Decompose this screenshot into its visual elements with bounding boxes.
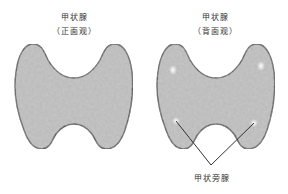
back-view-subtitle: （背面观） (193, 25, 238, 36)
thyroid-front-shape (15, 44, 133, 149)
thyroid-back-shape (157, 44, 275, 149)
thyroid-diagram (0, 0, 288, 194)
thyroid-front-view (15, 44, 133, 149)
parathyroid-upper-left-spot (169, 65, 177, 75)
parathyroid-label: 甲状旁腺 (194, 172, 230, 183)
front-view-subtitle: （正面观） (52, 25, 97, 36)
front-view-title: 甲状腺 (61, 11, 88, 22)
parathyroid-upper-right-spot (257, 61, 265, 71)
thyroid-back-view (157, 44, 275, 165)
back-view-title: 甲状腺 (202, 11, 229, 22)
